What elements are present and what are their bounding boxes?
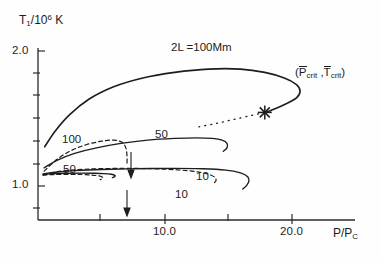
x-axis-ticks — [100, 214, 292, 224]
curve-dotted-approach — [199, 113, 264, 127]
curve-2l-100mm — [45, 69, 300, 147]
crit-p-sub: crit — [307, 71, 318, 80]
arrow-50-head — [124, 208, 130, 216]
crit-t-sub: crit — [331, 71, 342, 80]
label-2l-100mm: 2L =100Mm — [171, 42, 232, 54]
label-curve-50-upper: 50 — [155, 129, 168, 141]
x-axis-title: P/PC — [333, 227, 358, 241]
pointer-arrows — [124, 152, 134, 216]
crit-paren-close: ) — [341, 66, 345, 78]
x-axis-title-main: P/P — [333, 226, 352, 240]
crit-p-symbol: P — [299, 66, 307, 79]
y-axis-title-sup: 6 — [47, 13, 51, 22]
crit-t-symbol: T — [324, 66, 331, 79]
y-axis-title-mid: /10 — [31, 13, 48, 27]
curve-10-solid — [43, 173, 115, 178]
label-critical-point: (Pcrit ,Tcrit) — [295, 66, 345, 80]
y-axis-title-unit: K — [55, 13, 63, 27]
plot-canvas — [0, 0, 380, 263]
y-tick-label-1-0: 1.0 — [12, 179, 29, 191]
x-tick-label-20-0: 20.0 — [280, 226, 303, 238]
y-axis-title: T1/106 K — [19, 14, 63, 28]
arrow-100-head — [128, 170, 134, 178]
label-curve-100: 100 — [62, 134, 81, 146]
x-tick-label-10-0: 10.0 — [153, 226, 176, 238]
curve-group — [43, 69, 300, 189]
label-curve-10-upper: 10 — [196, 171, 209, 183]
critical-point-marker — [258, 105, 272, 119]
label-curve-10-lower: 10 — [175, 189, 188, 201]
y-tick-label-2-0: 2.0 — [12, 45, 29, 57]
y-axis-ticks — [33, 51, 45, 208]
figure-panel: T1/106 K P/PC 2.0 1.0 10.0 20.0 2L =100M… — [0, 0, 380, 263]
x-axis-title-sub: C — [352, 232, 358, 241]
label-curve-50-lower: 50 — [63, 164, 76, 176]
